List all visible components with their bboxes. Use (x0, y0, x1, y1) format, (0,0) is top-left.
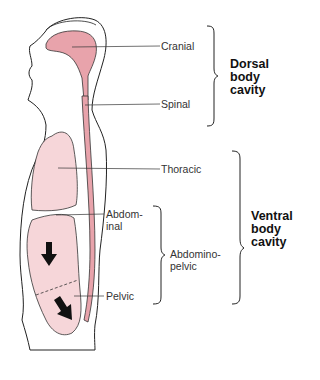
group-ventral: Ventral body cavity (251, 210, 293, 249)
ventral-bracket (232, 151, 244, 304)
group-dorsal: Dorsal body cavity (230, 58, 269, 97)
label-thoracic: Thoracic (161, 163, 201, 175)
label-cranial: Cranial (161, 40, 194, 52)
label-abdominal-2: inal (106, 220, 122, 232)
label-abdominopelvic-2: pelvic (170, 260, 197, 272)
label-spinal: Spinal (161, 98, 190, 110)
abdominopelvic-cavity (27, 214, 81, 334)
label-abdominopelvic-1: Abdomino- (170, 248, 221, 260)
cranial-cavity (46, 31, 96, 100)
abdominopelvic-bracket (153, 206, 165, 304)
spinal-cavity (82, 96, 95, 322)
dorsal-bracket (207, 26, 218, 126)
label-pelvic: Pelvic (106, 290, 134, 302)
thoracic-cavity (31, 132, 77, 211)
label-abdominal-1: Abdom- (106, 208, 143, 220)
